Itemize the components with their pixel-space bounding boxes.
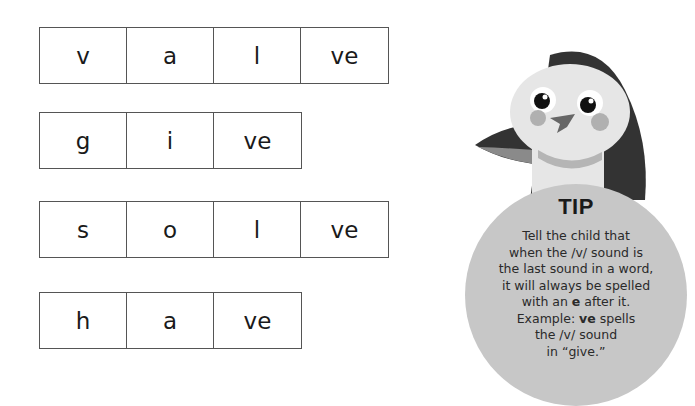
letter-cell: g [40,113,127,168]
word-row-give: g i ve [39,112,302,169]
tip-line: with an e after it. [465,294,687,311]
letter-cell: h [40,293,127,348]
letter-cell: i [127,113,214,168]
word-row-have: h a ve [39,292,302,349]
tip-bubble: TIP Tell the child that when the /v/ sou… [465,184,687,406]
tip-title: TIP [465,194,687,220]
letter-cell: l [214,202,301,257]
letter-cell: ve [301,202,388,257]
tip-text: Tell the child that when the /v/ sound i… [465,228,687,360]
tip-line: the last sound in a word, [465,261,687,278]
tip-line: the /v/ sound [465,327,687,344]
tip-line: it will always be spelled [465,278,687,295]
tip-line: in “give.” [465,344,687,361]
letter-cell: o [127,202,214,257]
letter-cell: l [214,28,301,83]
letter-cell: ve [214,113,301,168]
letter-cell: a [127,293,214,348]
tip-line: when the /v/ sound is [465,245,687,262]
letter-cell: ve [301,28,388,83]
word-row-valve: v a l ve [39,27,389,84]
letter-cell: s [40,202,127,257]
tip-line: Example: ve spells [465,311,687,328]
tip-line: Tell the child that [465,228,687,245]
word-row-solve: s o l ve [39,201,389,258]
letter-cell: a [127,28,214,83]
letter-cell: v [40,28,127,83]
letter-cell: ve [214,293,301,348]
